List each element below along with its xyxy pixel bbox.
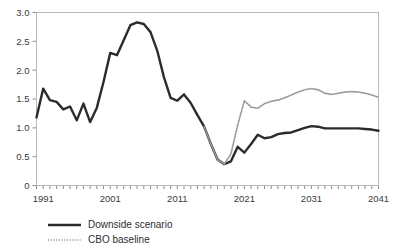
x-axis-ticks: 199120012011202120312041 bbox=[33, 186, 389, 204]
x-tick-label: 2031 bbox=[301, 193, 322, 204]
legend-label-cbo-baseline: CBO baseline bbox=[88, 234, 150, 245]
y-tick-label: 1.0 bbox=[16, 122, 29, 133]
plot-frame bbox=[37, 13, 379, 186]
y-tick-label: 1.5 bbox=[16, 93, 29, 104]
y-tick-label: 0 bbox=[24, 180, 29, 191]
y-tick-label: 0.5 bbox=[16, 151, 29, 162]
series-line-cbo-baseline bbox=[204, 89, 378, 165]
y-tick-label: 2.0 bbox=[16, 65, 29, 76]
chart-container: 00.51.01.52.02.53.0 19912001201120212031… bbox=[0, 0, 393, 252]
y-axis-ticks: 00.51.01.52.02.53.0 bbox=[16, 7, 36, 191]
y-tick-label: 2.5 bbox=[16, 36, 29, 47]
x-tick-label: 2021 bbox=[234, 193, 255, 204]
line-chart: 00.51.01.52.02.53.0 19912001201120212031… bbox=[0, 0, 393, 252]
y-tick-label: 3.0 bbox=[16, 7, 29, 18]
legend-label-downside-scenario: Downside scenario bbox=[88, 219, 173, 230]
chart-legend: Downside scenarioCBO baseline bbox=[48, 219, 173, 245]
x-tick-label: 2011 bbox=[167, 193, 187, 204]
x-tick-label: 2041 bbox=[368, 193, 389, 204]
data-series-group bbox=[37, 22, 379, 164]
x-tick-label: 1991 bbox=[33, 193, 54, 204]
x-tick-label: 2001 bbox=[100, 193, 121, 204]
